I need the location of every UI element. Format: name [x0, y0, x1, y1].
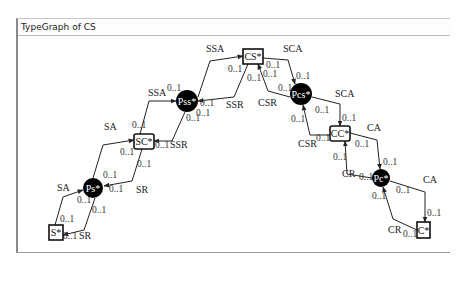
edge-ssa-sc-to-pss[interactable]: SSA0..10..1: [132, 83, 182, 134]
target-multiplicity: 0..1: [200, 98, 215, 108]
node-c[interactable]: C*: [417, 222, 430, 238]
target-multiplicity: 0..1: [427, 208, 442, 218]
target-multiplicity: 0..1: [342, 113, 357, 123]
node-pcs[interactable]: Pcs*: [290, 83, 312, 105]
edge-label: SSA: [148, 87, 167, 98]
edge-label: SA: [104, 121, 118, 132]
node-pss[interactable]: Pss*: [176, 90, 198, 112]
target-multiplicity: 0..1: [291, 114, 306, 124]
edge-ca-pc-to-c[interactable]: CA0..10..1: [390, 174, 442, 222]
node-label: Pss*: [178, 96, 196, 107]
source-multiplicity: 0..1: [60, 214, 75, 224]
source-multiplicity: 0..1: [403, 229, 418, 239]
edge-label: CSR: [258, 97, 277, 108]
source-multiplicity: 0..1: [315, 105, 330, 115]
node-cs[interactable]: CS*: [243, 49, 263, 64]
source-multiplicity: 0..1: [132, 120, 147, 130]
source-multiplicity: 0..1: [103, 170, 118, 180]
node-pc[interactable]: Pc*: [372, 169, 390, 187]
edge-label: SA: [57, 182, 71, 193]
node-label: CS*: [244, 51, 261, 62]
edge-ca-cc-to-pc[interactable]: CA0..10..1: [350, 122, 398, 169]
target-multiplicity: 0..1: [383, 157, 398, 167]
target-multiplicity: 0..1: [109, 184, 124, 194]
edge-label: SSR: [170, 139, 188, 150]
target-multiplicity: 0..1: [167, 83, 182, 93]
node-ps[interactable]: Ps*: [83, 178, 103, 198]
node-label: Pc*: [374, 173, 389, 184]
edge-label: CR: [342, 168, 356, 179]
node-s[interactable]: S*: [49, 225, 63, 240]
source-multiplicity: 0..1: [355, 139, 370, 149]
edge-csr-pcs-to-cs[interactable]: CSR0..10..1: [258, 64, 293, 108]
target-multiplicity: 0..1: [63, 231, 78, 241]
edge-ssr-pss-to-sc[interactable]: SSR0..10..1: [154, 112, 201, 150]
source-multiplicity: 0..1: [396, 185, 411, 195]
edge-cr-c-to-pc[interactable]: CR0..10..1: [372, 187, 418, 239]
target-multiplicity: 0..1: [120, 147, 135, 157]
target-multiplicity: 0..1: [333, 152, 348, 162]
edge-label: SCA: [283, 43, 303, 54]
type-graph-canvas: SSA0..10..1SSR0..10..1SCA0..10..1CSR0..1…: [0, 0, 462, 288]
edge-label: SSA: [206, 43, 225, 54]
node-sc[interactable]: SC*: [134, 134, 154, 149]
node-label: CC*: [331, 128, 349, 139]
edge-label: SR: [136, 184, 149, 195]
source-multiplicity: 0..1: [316, 133, 331, 143]
source-multiplicity: 0..1: [186, 113, 201, 123]
edge-label: SCA: [335, 88, 355, 99]
node-cc[interactable]: CC*: [330, 126, 350, 141]
target-multiplicity: 0..1: [296, 71, 311, 81]
node-label: SC*: [135, 136, 152, 147]
edge-label: SSR: [226, 99, 244, 110]
edge-label: SR: [79, 230, 92, 241]
source-multiplicity: 0..1: [359, 172, 374, 182]
edge-sca-pcs-to-cc[interactable]: SCA0..10..1: [312, 88, 357, 126]
node-label: Pcs*: [292, 89, 311, 100]
edge-label: CR: [388, 224, 402, 235]
target-multiplicity: 0..1: [228, 64, 243, 74]
target-multiplicity: 0..1: [155, 140, 170, 150]
source-multiplicity: 0..1: [92, 205, 107, 215]
source-multiplicity: 0..1: [137, 159, 152, 169]
node-label: C*: [418, 225, 430, 236]
edge-label: CA: [423, 174, 438, 185]
edge-label: CSR: [298, 138, 317, 149]
target-multiplicity: 0..1: [263, 69, 278, 79]
edges-layer: SSA0..10..1SSR0..10..1SCA0..10..1CSR0..1…: [55, 43, 442, 241]
target-multiplicity: 0..1: [372, 191, 387, 201]
edge-line: [154, 112, 185, 141]
source-multiplicity: 0..1: [247, 73, 262, 83]
edge-label: CA: [367, 122, 382, 133]
node-label: Ps*: [86, 183, 100, 194]
node-label: S*: [51, 227, 62, 238]
edge-sa-ps-to-sc[interactable]: SA0..10..1: [93, 121, 135, 180]
